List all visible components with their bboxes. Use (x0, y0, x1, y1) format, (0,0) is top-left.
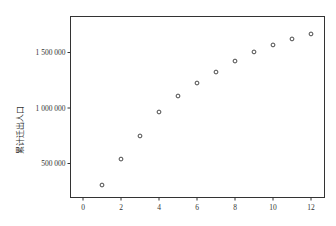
plot-frame (71, 17, 325, 198)
y-tick-label: 1 500 000 (36, 48, 66, 57)
x-tick-label: 10 (269, 203, 277, 212)
x-tick-label: 4 (157, 203, 161, 212)
data-point (290, 37, 294, 41)
data-point (176, 94, 180, 98)
x-tick-label: 2 (119, 203, 123, 212)
data-point (138, 134, 142, 138)
data-points (100, 32, 313, 187)
y-tick-label: 500 000 (41, 159, 66, 168)
x-tick-label: 0 (81, 203, 85, 212)
x-tick-label: 8 (233, 203, 237, 212)
data-point (100, 183, 104, 187)
data-point (252, 50, 256, 54)
y-axis-ticks: 500 0001 000 0001 500 000 (36, 48, 71, 168)
data-point (119, 157, 123, 161)
x-axis-ticks: 024681012 (81, 198, 315, 212)
data-point (309, 32, 313, 36)
x-tick-label: 12 (307, 203, 315, 212)
y-tick-label: 1 000 000 (36, 104, 66, 113)
data-point (195, 81, 199, 85)
scatter-chart: 024681012 500 0001 000 0001 500 000 累计迁出… (0, 0, 336, 226)
data-point (157, 110, 161, 114)
x-tick-label: 6 (195, 203, 199, 212)
data-point (214, 70, 218, 74)
data-point (271, 43, 275, 47)
data-point (233, 59, 237, 63)
y-axis-label: 累计迁出人口 (15, 106, 25, 154)
